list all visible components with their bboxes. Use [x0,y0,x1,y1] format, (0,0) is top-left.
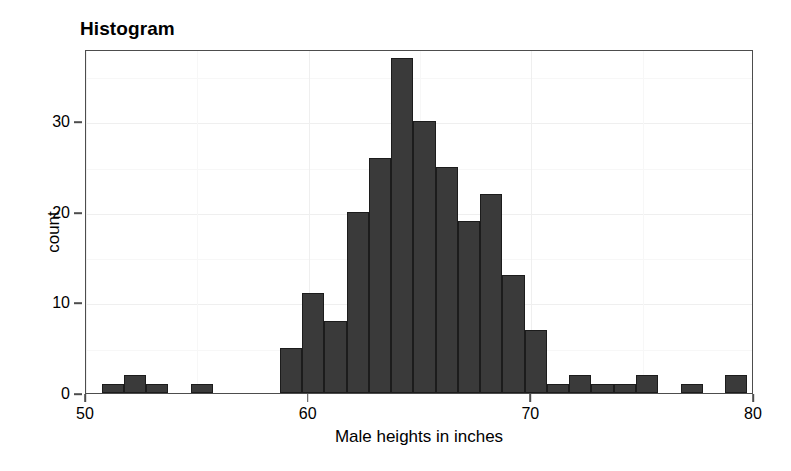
histogram-bar [124,375,146,393]
y-tick-label: 10 [52,294,70,312]
histogram-bar [502,275,524,393]
x-tick-label: 70 [521,405,539,423]
histogram-bar [525,330,547,393]
histogram-bar [324,321,346,393]
histogram-bar [569,375,591,393]
histogram-bar [191,384,213,393]
y-tick-label: 30 [52,113,70,131]
histogram-bar [725,375,747,393]
histogram-bar [413,121,435,393]
histogram-bar [547,384,569,393]
x-tick-mark [84,394,86,402]
y-tick-mark [74,303,82,305]
histogram-bar [458,221,480,393]
x-axis-title: Male heights in inches [85,427,753,447]
x-tick-label: 60 [299,405,317,423]
histogram-bar [480,194,502,393]
histogram-bar [391,58,413,393]
histogram-bar [369,158,391,393]
bars-layer [86,51,752,393]
x-tick-label: 80 [744,405,762,423]
y-axis-title: count [44,172,64,292]
page-title: Histogram [80,18,175,40]
histogram-bar [436,167,458,393]
x-tick-mark [752,394,754,402]
histogram-bar [102,384,124,393]
histogram-bar [146,384,168,393]
x-tick-mark [530,394,532,402]
x-tick-label: 50 [76,405,94,423]
y-tick-mark [74,212,82,214]
histogram-bar [591,384,613,393]
histogram-bar [302,293,324,393]
x-tick-mark [307,394,309,402]
histogram-bar [347,212,369,393]
histogram-figure: Histogram 0102030 count 50607080 Male he… [0,0,791,471]
histogram-bar [614,384,636,393]
y-tick-mark [74,122,82,124]
plot-panel [85,50,753,394]
histogram-bar [636,375,658,393]
histogram-bar [681,384,703,393]
histogram-bar [280,348,302,393]
